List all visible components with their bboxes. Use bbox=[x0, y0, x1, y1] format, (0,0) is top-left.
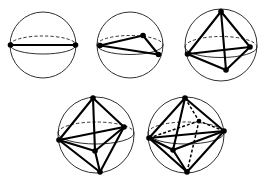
vertex-dot bbox=[121, 124, 127, 130]
vertex-dot bbox=[184, 169, 190, 175]
vertex-dot bbox=[146, 135, 152, 141]
vertex-dot bbox=[182, 95, 188, 101]
vertex-dot bbox=[185, 51, 191, 57]
vertex-dot bbox=[90, 95, 96, 101]
vertex-dot bbox=[170, 147, 176, 153]
vertex-dot bbox=[156, 52, 162, 58]
vertex-dot bbox=[140, 33, 146, 39]
vertex-dot bbox=[97, 43, 103, 49]
diagram-background bbox=[0, 0, 270, 182]
vertex-dot bbox=[197, 119, 202, 124]
vertex-dot bbox=[97, 169, 103, 175]
vertex-dot bbox=[247, 44, 253, 50]
vertex-dot bbox=[56, 137, 62, 143]
vertex-dot bbox=[221, 128, 227, 134]
vertex-dot bbox=[223, 67, 229, 73]
vertex-dot bbox=[92, 148, 98, 154]
polytope-diagram-canvas bbox=[0, 0, 270, 182]
vertex-dot bbox=[218, 9, 224, 15]
vertex-dot bbox=[8, 42, 14, 48]
vertex-dot bbox=[73, 42, 79, 48]
